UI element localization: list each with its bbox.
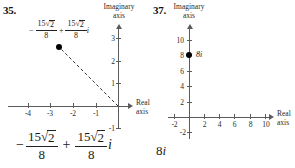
imaginary-axis-label: Imaginary axis [164, 3, 214, 20]
x-tick-label: 2 [198, 120, 211, 129]
x-tick-label: 6 [228, 120, 241, 129]
real-axis-label-line2: axis [277, 119, 295, 128]
radicand: 2 [47, 130, 56, 145]
x-tick-label: 10 [259, 120, 273, 129]
radical-icon: √2 [41, 130, 56, 145]
plotted-point-37 [186, 52, 192, 58]
imaginary-unit: i [163, 143, 167, 158]
imaginary-axis-label-line2: axis [164, 12, 214, 21]
fraction-denominator: 8 [36, 147, 47, 161]
fraction-numerator: 15√2 [26, 130, 58, 147]
radicand: 2 [97, 130, 106, 145]
coefficient: 15 [77, 129, 90, 144]
fraction-numerator: 15√2 [75, 130, 107, 147]
imaginary-unit: i [107, 137, 112, 153]
minus-sign: − [14, 137, 26, 153]
dashed-modulus-line [8, 14, 148, 129]
x-tick-mark [234, 114, 235, 119]
real-axis-label: Real axis [277, 110, 295, 127]
point-label-value: 8i [196, 50, 202, 59]
y-tick-mark [187, 71, 192, 72]
radical-icon: √2 [90, 130, 105, 145]
x-tick-mark [219, 114, 220, 119]
x-tick-mark [174, 114, 175, 119]
plotted-point-35 [56, 44, 62, 50]
complex-plane-plot-37: -2 2 4 6 8 10 10 8 6 4 2 -2 Imaginary ax… [168, 14, 295, 139]
y-tick-mark [187, 132, 192, 133]
x-tick-mark [204, 114, 205, 119]
answer-expression-37: 8i [156, 143, 166, 159]
x-tick-mark [265, 114, 266, 119]
imaginary-axis-line [189, 29, 190, 139]
y-tick-label: 10 [170, 36, 184, 45]
plus-sign: + [58, 137, 76, 153]
complex-plane-plot-35: -4 -3 -2 -1 3 2 1 -1 Imaginary axis Real… [8, 14, 148, 124]
y-tick-mark [187, 86, 192, 87]
coefficient: 15 [28, 129, 41, 144]
problem-panel-35: 35. − 15√2 8 + 15√2 8 i -4 - [0, 0, 148, 168]
fraction-second: 15√2 8 [75, 130, 107, 161]
y-tick-label: 6 [170, 67, 184, 76]
fraction-first: 15√2 8 [26, 130, 58, 161]
dashed-line-segment [59, 47, 118, 106]
y-tick-mark [187, 40, 192, 41]
problem-panel-37: 37. -2 2 4 6 8 10 10 8 6 4 2 -2 [148, 0, 295, 168]
fraction-denominator: 8 [86, 147, 97, 161]
imaginary-axis-arrow-icon [187, 24, 193, 29]
x-tick-mark [250, 114, 251, 119]
y-tick-mark [187, 102, 192, 103]
point-annotation-37: 8i [196, 50, 202, 59]
x-tick-label: 8 [244, 120, 257, 129]
y-tick-label: 4 [170, 82, 184, 91]
y-tick-label: -2 [172, 128, 186, 137]
y-tick-label: 2 [170, 98, 184, 107]
y-tick-label: 8 [170, 51, 184, 60]
answer-expression-35: − 15√2 8 + 15√2 8 i [14, 130, 112, 161]
x-tick-label: 4 [213, 120, 226, 129]
